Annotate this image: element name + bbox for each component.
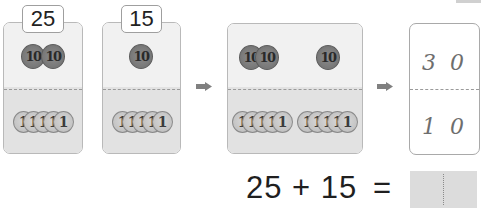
corner-decoration (456, 0, 481, 3)
one-yen-coin: 1 (272, 111, 293, 133)
result-divider (410, 89, 479, 90)
ten-yen-coin: 10 (316, 45, 340, 70)
one-yen-coin: 1 (152, 111, 173, 133)
result-bottom-ones: 0 (450, 114, 464, 139)
card-label-15: 15 (121, 5, 162, 33)
result-top-tens: 3 (422, 50, 436, 75)
right-arrow-icon (377, 82, 393, 91)
ten-yen-coin: 10 (129, 44, 153, 69)
result-card: 3 0 1 0 (409, 23, 480, 155)
number-card-15: 10 1 1 1 1 1 (102, 22, 181, 154)
answer-box-divider (443, 174, 444, 205)
one-yen-coin: 1 (337, 111, 358, 133)
equals-sign: = (373, 170, 392, 206)
result-bottom-tens: 1 (422, 114, 436, 139)
combined-card: 10 10 10 1 1 1 1 1 1 1 1 1 1 (227, 23, 363, 154)
answer-input-box[interactable] (410, 171, 477, 208)
ten-yen-coin: 10 (255, 45, 279, 70)
ten-yen-coin: 10 (41, 44, 65, 69)
number-card-25: 10 10 1 1 1 1 1 (3, 22, 83, 154)
one-yen-coin: 1 (53, 111, 74, 133)
card-label-25: 25 (22, 5, 64, 33)
equation-expression: 25 + 15 (246, 170, 357, 206)
right-arrow-icon (196, 82, 212, 91)
result-top-ones: 0 (450, 50, 464, 75)
